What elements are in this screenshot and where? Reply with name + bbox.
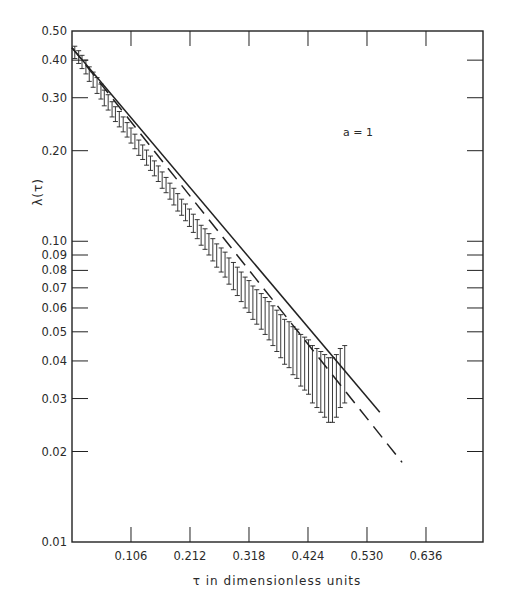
dashed-fit-line <box>72 48 402 463</box>
y-tick-label: 0.05 <box>41 325 67 339</box>
y-axis-label: λ(τ) <box>31 178 45 206</box>
y-tick-label: 0.03 <box>41 392 67 406</box>
error-bar <box>203 229 208 250</box>
error-bar <box>226 258 231 284</box>
y-axis-ticks: 0.500.400.300.200.100.090.080.070.060.05… <box>41 24 483 549</box>
error-bar <box>250 286 255 319</box>
x-tick-label: 0.318 <box>233 549 266 563</box>
x-tick-label: 0.530 <box>351 549 384 563</box>
error-bar <box>102 90 107 106</box>
y-tick-label: 0.04 <box>41 354 67 368</box>
error-bar <box>287 322 292 368</box>
error-bar <box>179 199 184 215</box>
error-bar <box>318 352 323 413</box>
error-bar <box>175 194 180 211</box>
error-bar <box>294 329 299 378</box>
error-bar <box>214 244 219 267</box>
error-bar <box>187 209 192 226</box>
error-bar <box>128 128 133 143</box>
error-bar <box>160 172 165 188</box>
y-tick-label: 0.40 <box>41 53 67 67</box>
error-bar <box>106 95 111 110</box>
error-bar <box>136 140 141 155</box>
error-bar <box>167 183 172 199</box>
x-axis-ticks: 0.1060.2120.3180.4240.5300.636 <box>115 31 443 563</box>
error-bar <box>171 188 176 205</box>
error-bar <box>231 262 236 289</box>
y-tick-label: 0.08 <box>41 263 67 277</box>
error-bar <box>302 337 307 390</box>
y-tick-label: 0.20 <box>41 144 67 158</box>
error-bar <box>314 348 319 407</box>
parameter-annotation: a = 1 <box>343 126 373 139</box>
error-bar <box>223 252 228 277</box>
error-bar <box>199 225 204 245</box>
error-bar <box>117 111 122 126</box>
data-series <box>72 46 402 462</box>
error-bar <box>164 177 169 192</box>
error-bar <box>148 156 153 170</box>
error-bar <box>330 358 335 423</box>
error-bar <box>338 348 343 407</box>
y-tick-label: 0.02 <box>41 445 67 459</box>
frame-border <box>72 31 483 542</box>
error-bar <box>156 166 161 182</box>
x-tick-label: 0.424 <box>292 549 325 563</box>
y-tick-label: 0.50 <box>41 24 67 38</box>
chart: 0.500.400.300.200.100.090.080.070.060.05… <box>0 0 509 600</box>
error-bar <box>342 346 347 403</box>
y-tick-label: 0.01 <box>41 535 67 549</box>
error-bar <box>140 145 145 160</box>
plot-frame <box>72 31 483 542</box>
error-bar <box>243 277 248 308</box>
error-bar <box>125 123 130 137</box>
error-bar <box>235 267 240 295</box>
error-bar <box>191 214 196 232</box>
error-bar <box>195 220 200 239</box>
error-bar <box>121 117 126 132</box>
y-tick-label: 0.06 <box>41 301 67 315</box>
error-bar <box>144 150 149 165</box>
error-bar <box>152 161 157 176</box>
y-tick-label: 0.07 <box>41 281 67 295</box>
error-bar <box>206 234 211 255</box>
x-tick-label: 0.212 <box>174 549 207 563</box>
error-bar <box>110 102 115 117</box>
error-bar <box>183 204 188 221</box>
x-tick-label: 0.636 <box>410 549 443 563</box>
y-tick-label: 0.30 <box>41 91 67 105</box>
error-bar <box>210 239 215 261</box>
error-bar <box>259 294 264 330</box>
y-tick-label: 0.09 <box>41 248 67 262</box>
x-axis-label: τ in dimensionless units <box>193 574 362 588</box>
error-bar <box>113 107 118 122</box>
error-bar <box>239 272 244 302</box>
error-bar <box>132 134 137 149</box>
error-bar <box>219 248 224 272</box>
y-tick-label: 0.10 <box>41 234 67 248</box>
x-tick-label: 0.106 <box>115 549 148 563</box>
